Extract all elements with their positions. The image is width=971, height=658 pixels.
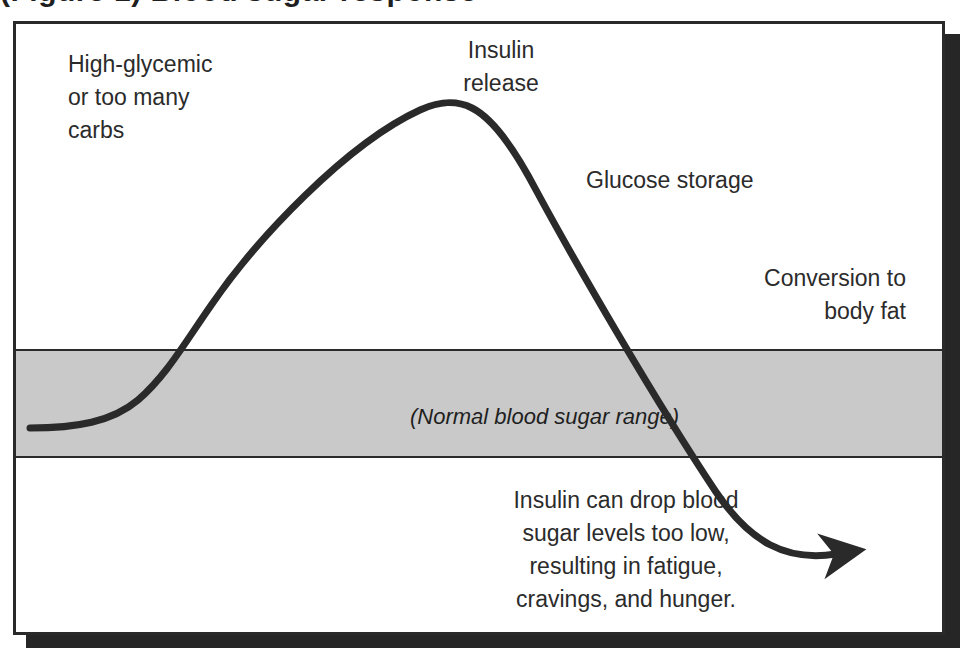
annotation-fat-line-2: body fat xyxy=(676,295,906,328)
annotation-source-line-2: or too many xyxy=(68,81,298,114)
annotation-crash-line-4: cravings, and hunger. xyxy=(456,583,796,616)
annotation-crash-line-1: Insulin can drop blood xyxy=(456,484,796,517)
annotation-peak-line-1: Insulin xyxy=(406,34,596,67)
annotation-body-fat: Conversion to body fat xyxy=(676,262,906,328)
annotation-fat-line-1: Conversion to xyxy=(676,262,906,295)
annotation-source-line-1: High-glycemic xyxy=(68,48,298,81)
plot-area: (Normal blood sugar range) High-glycemic… xyxy=(16,24,942,632)
annotation-crash-line-3: resulting in fatigue, xyxy=(456,550,796,583)
figure-frame: (Normal blood sugar range) High-glycemic… xyxy=(13,21,945,635)
figure-stage: (Figure 1) Blood sugar response (Normal … xyxy=(0,0,971,658)
annotation-crash-line-2: sugar levels too low, xyxy=(456,517,796,550)
annotation-insulin-crash: Insulin can drop blood sugar levels too … xyxy=(456,484,796,616)
cropped-title-text: (Figure 1) Blood sugar response xyxy=(0,0,760,8)
annotation-insulin-release: Insulin release xyxy=(406,34,596,100)
annotation-glucose-storage: Glucose storage xyxy=(586,164,876,197)
annotation-storage-line-1: Glucose storage xyxy=(586,164,876,197)
annotation-peak-line-2: release xyxy=(406,67,596,100)
annotation-source-line-3: carbs xyxy=(68,114,298,147)
annotation-source: High-glycemic or too many carbs xyxy=(68,48,298,147)
